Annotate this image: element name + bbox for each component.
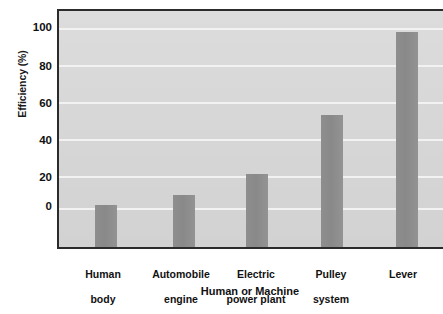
- x-tick-line1: Pulley: [292, 268, 370, 281]
- x-tick-line1: Human: [63, 268, 143, 281]
- gridline-40: [59, 139, 443, 141]
- x-tick-line1: Electric: [212, 268, 300, 281]
- bar-lever: [396, 32, 418, 249]
- gridline-100: [59, 28, 443, 30]
- y-tick-label-80: 80: [24, 61, 52, 73]
- x-axis-title: Human or Machine: [57, 285, 443, 297]
- bar-automobile-engine: [173, 195, 195, 249]
- efficiency-bar-chart: Efficiency (%) 100 80 60 40 20 0 Human b…: [0, 0, 443, 314]
- y-tick-label-20: 20: [24, 172, 52, 184]
- y-tick-label-60: 60: [24, 98, 52, 110]
- bar-pulley-system: [321, 115, 343, 249]
- plot-background: [59, 11, 443, 247]
- plot-area: [57, 9, 443, 249]
- x-tick-line1: Lever: [368, 268, 438, 281]
- y-tick-label-40: 40: [24, 135, 52, 147]
- y-tick-label-100: 100: [24, 22, 52, 34]
- bar-human-body: [95, 205, 117, 249]
- x-tick-line1: Automobile: [140, 268, 222, 281]
- bar-electric-power-plant: [246, 174, 268, 249]
- y-tick-label-0: 0: [24, 201, 52, 213]
- gridline-80: [59, 65, 443, 67]
- gridline-60: [59, 102, 443, 104]
- x-tick-label-lever: Lever: [368, 255, 438, 305]
- y-axis-tick-labels: 100 80 60 40 20 0: [22, 0, 52, 314]
